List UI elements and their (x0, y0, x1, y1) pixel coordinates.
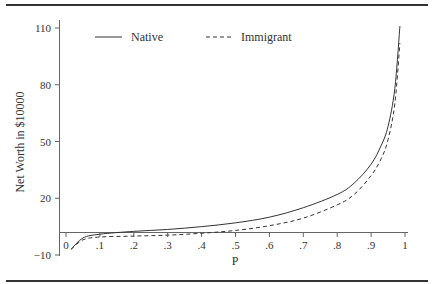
x-tick-label: .4 (197, 239, 206, 251)
y-tick-label: 20 (40, 192, 52, 204)
y-tick-label: −10 (34, 249, 52, 261)
x-tick-label: .7 (299, 239, 308, 251)
x-tick-label: .1 (96, 239, 104, 251)
legend: Native Immigrant (95, 30, 292, 44)
native-series-line (71, 26, 400, 249)
x-tick-label: 0 (63, 239, 69, 251)
legend-native-label: Native (131, 30, 163, 44)
x-axis-label: P (232, 254, 239, 268)
x-tick-label: .3 (164, 239, 173, 251)
y-tick-label: 80 (40, 79, 52, 91)
y-tick-label: 50 (40, 136, 52, 148)
y-ticks: 110805020−10 (34, 22, 60, 261)
x-ticks: 0.1.2.3.4.5.6.7.8.91 (63, 233, 408, 252)
legend-immigrant-label: Immigrant (241, 30, 292, 44)
x-tick-label: .8 (333, 239, 342, 251)
immigrant-series-line (71, 43, 400, 249)
y-axis-label: Net Worth in $10000 (13, 91, 27, 192)
x-tick-label: .6 (265, 239, 274, 251)
chart: 110805020−10 0.1.2.3.4.5.6.7.8.91 Net Wo… (0, 0, 433, 284)
y-tick-label: 110 (35, 22, 52, 34)
x-tick-label: 1 (402, 239, 408, 251)
x-tick-label: .2 (130, 239, 138, 251)
x-tick-label: .9 (367, 239, 376, 251)
x-tick-label: .5 (231, 239, 240, 251)
